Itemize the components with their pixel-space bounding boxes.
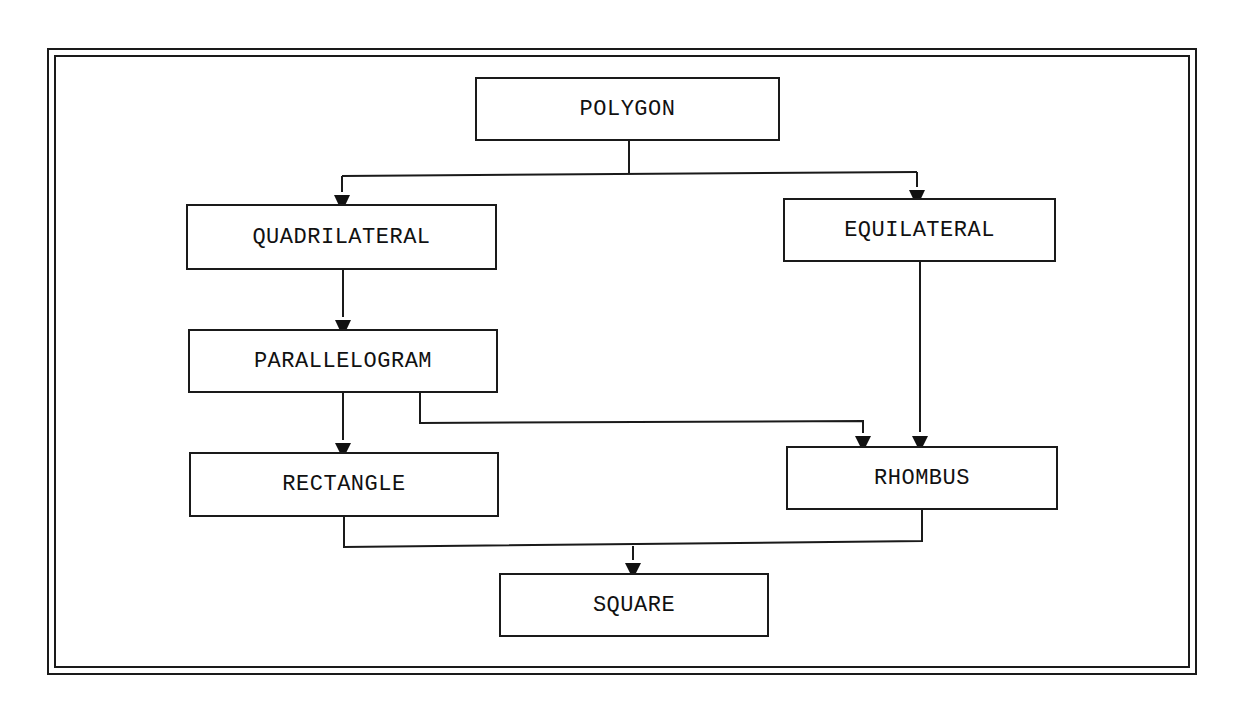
node-label: EQUILATERAL — [844, 218, 995, 243]
node-label: POLYGON — [580, 97, 676, 122]
edge-parallelogram-rhombus — [420, 393, 863, 433]
node-rectangle: RECTANGLE — [189, 452, 499, 517]
node-polygon: POLYGON — [475, 77, 780, 141]
node-label: PARALLELOGRAM — [254, 349, 432, 374]
node-quadrilateral: QUADRILATERAL — [186, 204, 497, 270]
diagram-canvas: POLYGON QUADRILATERAL EQUILATERAL PARALL… — [0, 0, 1237, 707]
node-parallelogram: PARALLELOGRAM — [188, 329, 498, 393]
node-rhombus: RHOMBUS — [786, 446, 1058, 510]
node-equilateral: EQUILATERAL — [783, 198, 1056, 262]
node-square: SQUARE — [499, 573, 769, 637]
node-label: RHOMBUS — [874, 466, 970, 491]
node-label: RECTANGLE — [282, 472, 405, 497]
node-label: SQUARE — [593, 593, 675, 618]
node-label: QUADRILATERAL — [252, 225, 430, 250]
